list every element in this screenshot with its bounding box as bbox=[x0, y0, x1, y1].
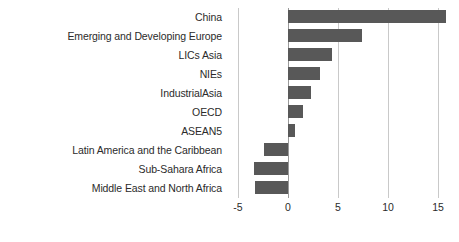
bar bbox=[255, 181, 288, 194]
category-label-latin-america-caribbean: Latin America and the Caribbean bbox=[0, 141, 228, 160]
bar-row bbox=[232, 8, 452, 27]
bar bbox=[288, 10, 446, 23]
x-tick-label: 5 bbox=[335, 200, 341, 214]
bar-row bbox=[232, 179, 452, 198]
bar-row bbox=[232, 160, 452, 179]
bar-row bbox=[232, 46, 452, 65]
category-label-lics-asia: LICs Asia bbox=[0, 46, 228, 65]
x-tick-label: -5 bbox=[233, 200, 242, 214]
bar-row bbox=[232, 141, 452, 160]
bar bbox=[288, 105, 303, 118]
category-label-asean5: ASEAN5 bbox=[0, 122, 228, 141]
bar bbox=[254, 162, 288, 175]
category-axis-labels: China Emerging and Developing Europe LIC… bbox=[0, 8, 228, 198]
x-axis-tick-labels: -5051015 bbox=[232, 200, 452, 218]
bar bbox=[288, 67, 320, 80]
category-label-industrialasia: IndustrialAsia bbox=[0, 84, 228, 103]
bar bbox=[288, 86, 311, 99]
category-label-oecd: OECD bbox=[0, 103, 228, 122]
category-label-sub-sahara-africa: Sub-Sahara Africa bbox=[0, 160, 228, 179]
category-label-middle-east-north-africa: Middle East and North Africa bbox=[0, 179, 228, 198]
bar-row bbox=[232, 65, 452, 84]
bar-row bbox=[232, 103, 452, 122]
bar bbox=[288, 48, 332, 61]
bar-row bbox=[232, 27, 452, 46]
bars-layer bbox=[232, 8, 452, 198]
x-tick-label: 0 bbox=[285, 200, 291, 214]
category-label-china: China bbox=[0, 8, 228, 27]
bar bbox=[288, 29, 362, 42]
bar-chart: China Emerging and Developing Europe LIC… bbox=[0, 0, 459, 242]
bar bbox=[264, 143, 288, 156]
bar bbox=[288, 124, 295, 137]
category-label-nies: NIEs bbox=[0, 65, 228, 84]
category-label-emerging-developing-europe: Emerging and Developing Europe bbox=[0, 27, 228, 46]
x-tick-label: 10 bbox=[382, 200, 394, 214]
plot-area bbox=[232, 8, 452, 198]
x-tick-label: 15 bbox=[432, 200, 444, 214]
bar-row bbox=[232, 122, 452, 141]
bar-row bbox=[232, 84, 452, 103]
